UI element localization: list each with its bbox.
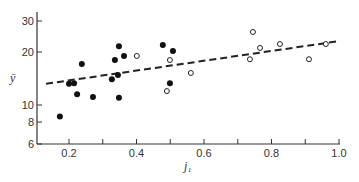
filled-point xyxy=(116,95,122,101)
filled-point xyxy=(167,80,173,86)
filled-point xyxy=(57,114,63,120)
filled-point xyxy=(116,43,122,49)
y-tick-label: 8 xyxy=(28,116,34,128)
open-point xyxy=(277,42,282,47)
filled-point xyxy=(160,42,166,48)
filled-point xyxy=(71,80,77,86)
data-points xyxy=(57,29,328,119)
open-point xyxy=(258,45,263,50)
x-tick-label: 0.8 xyxy=(264,147,279,159)
filled-point xyxy=(170,48,176,54)
filled-point xyxy=(121,53,127,59)
y-tick-label: 10 xyxy=(22,99,34,111)
scatter-chart: 0.20.40.60.81.068102030 j₁ ȳ xyxy=(0,0,359,182)
x-tick-label: 0.4 xyxy=(129,147,144,159)
filled-point xyxy=(115,72,121,78)
y-tick-label: 30 xyxy=(22,15,34,27)
open-point xyxy=(164,89,169,94)
y-tick-label: 20 xyxy=(22,46,34,58)
filled-point xyxy=(74,91,80,97)
filled-point xyxy=(90,94,96,100)
open-point xyxy=(247,57,252,62)
filled-point xyxy=(109,76,115,82)
open-point xyxy=(250,29,255,34)
fit-line xyxy=(46,41,340,84)
filled-point xyxy=(112,57,118,63)
filled-point xyxy=(79,61,85,67)
filled-point xyxy=(66,81,72,87)
y-axis-label: ȳ xyxy=(9,71,16,85)
open-point xyxy=(188,70,193,75)
x-axis-label: j₁ xyxy=(182,159,192,173)
x-tick-label: 0.2 xyxy=(61,147,76,159)
y-tick-label: 6 xyxy=(28,138,34,150)
open-point xyxy=(167,58,172,63)
regression-line xyxy=(46,41,340,84)
x-tick-label: 0.6 xyxy=(196,147,211,159)
open-point xyxy=(134,53,139,58)
open-point xyxy=(323,42,328,47)
x-tick-label: 1.0 xyxy=(331,147,346,159)
open-point xyxy=(306,57,311,62)
